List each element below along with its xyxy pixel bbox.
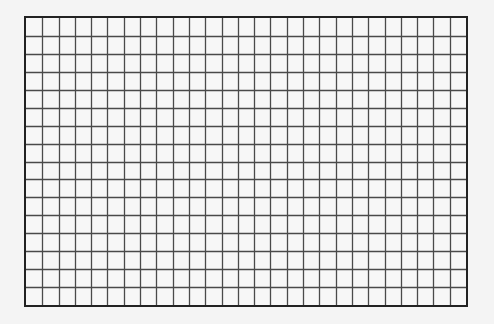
grid-lines <box>26 18 466 305</box>
grid-paper <box>24 16 468 307</box>
